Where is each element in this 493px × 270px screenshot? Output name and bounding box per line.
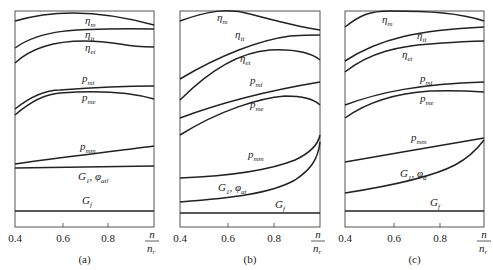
x-tick-label: 0.6 bbox=[221, 232, 235, 244]
panel-caption: (b) bbox=[244, 253, 257, 266]
engine-characteristics-figure: ηmηitηetpmipmepmmG1, φatlGf0.40.60.8nnr(… bbox=[0, 0, 493, 270]
curve-label-G-f: Gf bbox=[275, 198, 286, 213]
curve-label-G-f: Gf bbox=[82, 194, 93, 209]
curve-label-p-mm: pmm bbox=[247, 148, 264, 163]
curve-label-eta-m: ηm bbox=[382, 13, 393, 28]
curve-label-G1-phi: G1, φatl bbox=[78, 170, 108, 185]
panel-c: ηmηitηetpmipmepmmG1, φaGf0.40.60.8nnr(c) bbox=[338, 11, 491, 266]
x-axis-label-denominator: nr bbox=[313, 242, 322, 256]
curve-label-p-mm: pmm bbox=[410, 131, 427, 146]
curve-label-eta-et: ηet bbox=[402, 48, 414, 63]
curve-label-G1-phi: G1, φat bbox=[218, 181, 248, 196]
curve-label-p-mi: pmi bbox=[249, 74, 263, 89]
curve-label-eta-m: ηm bbox=[85, 14, 96, 29]
curve-label-eta-et: ηet bbox=[85, 41, 97, 56]
x-axis-label-numerator: n bbox=[481, 228, 487, 240]
x-tick-label: 0.8 bbox=[433, 232, 447, 244]
curve-G1-phi bbox=[15, 166, 154, 168]
x-tick-label: 0.4 bbox=[8, 232, 22, 244]
x-tick-label: 0.6 bbox=[387, 232, 401, 244]
x-axis-label-denominator: nr bbox=[147, 242, 156, 256]
plot-frame bbox=[345, 11, 484, 227]
panel-caption: (c) bbox=[408, 253, 421, 266]
curve-eta-m bbox=[345, 11, 484, 27]
curve-p-me bbox=[345, 91, 484, 118]
curve-label-p-mi: pmi bbox=[81, 72, 95, 87]
curve-label-p-mm: pmm bbox=[79, 140, 96, 155]
x-tick-label: 0.6 bbox=[56, 232, 70, 244]
x-axis-label-numerator: n bbox=[149, 228, 155, 240]
x-tick-label: 0.8 bbox=[267, 232, 281, 244]
x-tick-label: 0.8 bbox=[101, 232, 115, 244]
curve-eta-it bbox=[180, 35, 320, 79]
curve-label-p-me: pme bbox=[81, 91, 96, 106]
curve-label-G-f: Gf bbox=[430, 196, 441, 211]
panel-b: ηmηitηetpmipmepmmG1, φatGf0.40.60.8nnr(b… bbox=[173, 11, 325, 266]
curve-eta-et bbox=[345, 41, 484, 72]
x-axis-label-numerator: n bbox=[315, 228, 321, 240]
curve-label-eta-it: ηit bbox=[417, 29, 427, 44]
x-tick-label: 0.4 bbox=[173, 232, 187, 244]
panel-a: ηmηitηetpmipmepmmG1, φatlGf0.40.60.8nnr(… bbox=[8, 11, 159, 266]
curve-label-eta-m: ηm bbox=[217, 11, 228, 26]
curve-label-p-me: pme bbox=[419, 92, 434, 107]
curve-label-eta-it: ηit bbox=[235, 28, 245, 43]
curve-eta-it bbox=[345, 27, 484, 61]
curve-label-p-mi: pmi bbox=[419, 72, 433, 87]
curve-eta-m bbox=[180, 11, 320, 30]
x-tick-label: 0.4 bbox=[338, 232, 352, 244]
x-axis-label-denominator: nr bbox=[479, 242, 488, 256]
curve-p-mi bbox=[345, 82, 484, 105]
panel-caption: (a) bbox=[78, 253, 91, 266]
